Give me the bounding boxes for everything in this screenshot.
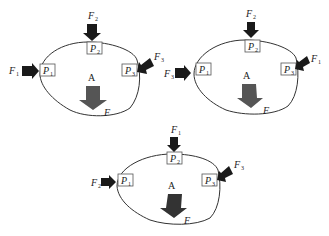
force-label-right: F 3 xyxy=(233,159,244,171)
point-box-p1: P 1 xyxy=(118,174,133,187)
force-arrow-down-left-icon xyxy=(295,56,310,71)
diagram-top-left: P 1 P 2 P 3 F 1 F 2 xyxy=(8,10,164,118)
resultant-label: F xyxy=(262,105,270,116)
force-arrow-right-icon xyxy=(101,175,116,189)
svg-text:F: F xyxy=(90,177,98,188)
svg-text:1: 1 xyxy=(16,71,19,77)
svg-text:P: P xyxy=(169,153,176,164)
svg-text:2: 2 xyxy=(177,159,180,165)
body-label: A xyxy=(88,72,96,83)
svg-text:1: 1 xyxy=(50,71,53,77)
svg-text:F: F xyxy=(153,51,161,62)
svg-text:3: 3 xyxy=(132,71,135,77)
force-label-top: F 1 xyxy=(170,124,181,136)
point-box-p2: P 2 xyxy=(167,152,182,165)
point-box-p2: P 2 xyxy=(87,42,102,55)
svg-text:1: 1 xyxy=(318,59,321,65)
force-label-left: F 1 xyxy=(8,65,19,77)
point-box-p2: P 2 xyxy=(245,40,260,53)
svg-text:2: 2 xyxy=(255,47,258,53)
point-box-p3: P 3 xyxy=(122,64,137,77)
force-label-right: F 1 xyxy=(310,53,321,65)
svg-text:P: P xyxy=(283,64,290,75)
force-label-top: F 2 xyxy=(87,10,98,22)
svg-text:P: P xyxy=(42,65,49,76)
force-arrow-down-left-icon xyxy=(137,58,154,74)
force-arrow-right-icon xyxy=(175,65,191,81)
svg-text:1: 1 xyxy=(206,70,209,76)
svg-text:3: 3 xyxy=(171,74,174,80)
svg-text:3: 3 xyxy=(161,57,164,63)
force-arrow-down-icon xyxy=(243,22,259,38)
body-label: A xyxy=(168,180,176,191)
svg-text:F: F xyxy=(245,8,253,19)
svg-text:3: 3 xyxy=(212,181,215,187)
resultant-arrow-icon xyxy=(79,86,107,110)
diagram-top-right: P 1 P 2 P 3 F 3 F 2 F xyxy=(163,8,321,116)
resultant-label: F xyxy=(183,215,191,226)
force-arrow-down-icon xyxy=(167,137,181,152)
svg-text:F: F xyxy=(170,124,178,135)
svg-text:3: 3 xyxy=(291,70,294,76)
svg-text:2: 2 xyxy=(97,49,100,55)
svg-text:F: F xyxy=(233,159,241,170)
svg-text:P: P xyxy=(204,175,211,186)
resultant-arrow-icon xyxy=(160,194,187,218)
diagram-bottom: P 1 P 2 P 3 F 2 F 1 F xyxy=(90,124,244,226)
svg-text:3: 3 xyxy=(241,165,244,171)
svg-text:P: P xyxy=(247,41,254,52)
resultant-label: F xyxy=(103,107,111,118)
force-arrow-down-icon xyxy=(83,24,101,41)
force-label-left: F 2 xyxy=(90,177,101,189)
force-label-right: F 3 xyxy=(153,51,164,63)
svg-text:2: 2 xyxy=(98,183,101,189)
svg-text:2: 2 xyxy=(95,16,98,22)
point-box-p1: P 1 xyxy=(196,63,211,76)
body-label: A xyxy=(243,70,251,81)
svg-text:F: F xyxy=(310,53,318,64)
svg-text:F: F xyxy=(87,10,95,21)
svg-text:F: F xyxy=(163,68,171,79)
force-label-left: F 3 xyxy=(163,68,174,80)
svg-text:F: F xyxy=(8,65,16,76)
svg-text:1: 1 xyxy=(128,181,131,187)
svg-text:2: 2 xyxy=(253,14,256,20)
force-arrow-down-left-icon xyxy=(217,166,233,182)
force-arrow-right-icon xyxy=(22,63,39,79)
svg-text:P: P xyxy=(120,175,127,186)
point-box-p3: P 3 xyxy=(281,63,296,76)
force-label-top: F 2 xyxy=(245,8,256,20)
svg-text:P: P xyxy=(198,64,205,75)
point-box-p3: P 3 xyxy=(202,174,217,187)
svg-text:P: P xyxy=(89,43,96,54)
resultant-arrow-icon xyxy=(237,84,263,108)
svg-text:P: P xyxy=(124,65,131,76)
force-diagrams: P 1 P 2 P 3 F 1 F 2 xyxy=(0,0,329,236)
point-box-p1: P 1 xyxy=(40,64,55,77)
svg-text:1: 1 xyxy=(178,130,181,136)
